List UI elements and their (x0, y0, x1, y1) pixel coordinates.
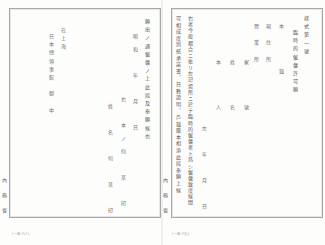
place-column: 在上海 (60, 28, 66, 53)
left-page: 願出ノ通僱傭ノ上此段及奉願候也 昭和 年 月 日 右 本ノ何 某 印 姓 名 何… (0, 0, 162, 245)
form-title: 臨時的僱傭許可願 (292, 30, 298, 96)
field-seimei: 姓 名 (229, 60, 235, 120)
form-number: 様式第一號 (303, 16, 309, 57)
right-page: 様式第一號 臨時的僱傭許可願 本 籍 現 住 所 營 業 所 家 號 姓 名 本… (163, 0, 325, 245)
field-yago: 家 號 (243, 60, 249, 120)
field-honseki: 本 籍 (278, 24, 284, 84)
field-genjusho: 現 住 所 (265, 24, 271, 65)
margin-label: 內務省 (162, 178, 169, 223)
employee-signature: 姓 名 何 某 印 (107, 104, 113, 221)
employer-signature: 右 本ノ何 某 印 (120, 97, 126, 214)
folio-number: (一五八九) (172, 231, 190, 236)
margin-label: 內務省 (1, 178, 8, 223)
statement-column: 願出ノ通僱傭ノ上此段及奉願候也 (144, 19, 150, 142)
body-text-line-2: 可相成度別紙承諾書、日數證明、戶籍謄本相添此段奉願上候 (175, 16, 181, 194)
body-text-line-1: 右者今般都合ニ依リ左記場所ニ於テ臨時的僱傭者ト爲シ僱傭致度候間 (187, 16, 193, 207)
field-honnin: 本 人 (215, 60, 221, 120)
addressee-column: 日本總領事館 御 中 (48, 34, 54, 116)
left-page-frame (9, 8, 161, 218)
date-column: 昭和 年 月 日 (132, 34, 138, 138)
date-column: 左 年 月 日 (201, 126, 207, 217)
field-eigyosho: 營 業 所 (253, 24, 259, 65)
folio-number: (一五八八) (12, 231, 30, 236)
